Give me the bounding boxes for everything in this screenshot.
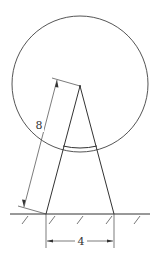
ground-hatching bbox=[22, 216, 140, 224]
slant-dimension-line bbox=[24, 80, 57, 207]
slant-ext-bottom bbox=[18, 206, 46, 214]
base-dimension-label: 4 bbox=[78, 235, 85, 248]
geometry-figure: 8 4 bbox=[0, 0, 160, 259]
slant-dimension-label: 8 bbox=[36, 119, 43, 132]
base-arrow-left bbox=[47, 240, 53, 243]
slant-arrow-top bbox=[55, 80, 59, 88]
base-arrow-right bbox=[107, 240, 113, 243]
ball-circle bbox=[12, 16, 148, 152]
cone-left-side bbox=[46, 86, 80, 214]
contact-arc bbox=[63, 146, 97, 148]
diagram-canvas: 8 4 bbox=[0, 0, 160, 259]
cone-right-side bbox=[80, 86, 114, 214]
